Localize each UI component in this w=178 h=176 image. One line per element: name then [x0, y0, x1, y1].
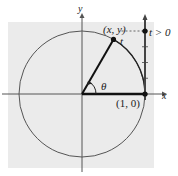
- unit-circle-diagram: y x (x, y) (1, 0) t θ t > 0: [0, 0, 178, 176]
- y-axis-label: y: [77, 3, 83, 14]
- x-axis-label: x: [161, 90, 167, 101]
- initial-point: [142, 91, 147, 96]
- angle-label: θ: [101, 80, 107, 92]
- number-line-arrow-icon: [143, 14, 148, 20]
- terminal-point: [111, 37, 116, 42]
- t-positive-label: t > 0: [149, 26, 171, 38]
- initial-point-label: (1, 0): [116, 97, 140, 110]
- number-line-point-t: [142, 28, 147, 33]
